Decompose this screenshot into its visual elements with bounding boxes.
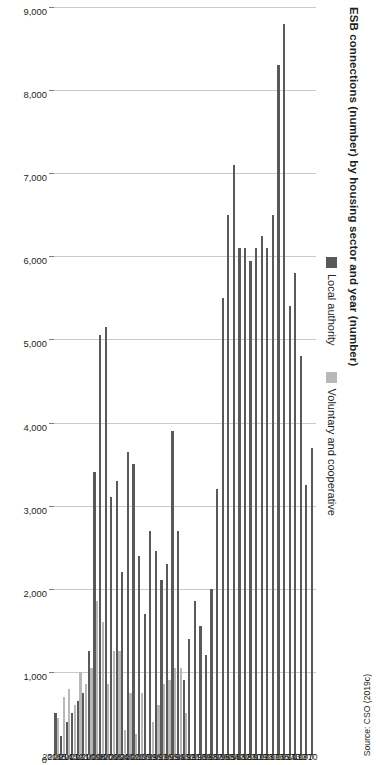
bar-local-authority[interactable] bbox=[183, 680, 185, 755]
bar-local-authority[interactable] bbox=[149, 531, 151, 755]
bar-row[interactable]: 1998 bbox=[154, 7, 160, 755]
bar-row[interactable]: 1992 bbox=[188, 7, 194, 755]
bar-row[interactable]: 1974 bbox=[288, 7, 294, 755]
bar-row[interactable]: 2000 bbox=[143, 7, 149, 755]
bar-row[interactable]: 1979 bbox=[260, 7, 266, 755]
bar-row[interactable]: 2012 bbox=[76, 7, 82, 755]
bar-local-authority[interactable] bbox=[244, 248, 246, 755]
bar-row[interactable]: 1985 bbox=[227, 7, 233, 755]
bar-local-authority[interactable] bbox=[105, 327, 107, 755]
bar-voluntary-cooperative[interactable] bbox=[63, 697, 65, 755]
bar-voluntary-cooperative[interactable] bbox=[85, 684, 87, 755]
bar-row[interactable]: 1989 bbox=[205, 7, 211, 755]
bar-voluntary-cooperative[interactable] bbox=[157, 705, 159, 755]
bar-row[interactable]: 1987 bbox=[216, 7, 222, 755]
bar-row[interactable]: 2007 bbox=[104, 7, 110, 755]
bar-voluntary-cooperative[interactable] bbox=[90, 668, 92, 755]
bar-local-authority[interactable] bbox=[300, 356, 302, 755]
bar-row[interactable]: 1984 bbox=[232, 7, 238, 755]
bar-row[interactable]: 1982 bbox=[244, 7, 250, 755]
bar-row[interactable]: 1970 bbox=[310, 7, 316, 755]
bar-voluntary-cooperative[interactable] bbox=[118, 651, 120, 755]
bar-local-authority[interactable] bbox=[194, 601, 196, 755]
bar-row[interactable]: 2014 bbox=[65, 7, 71, 755]
bar-local-authority[interactable] bbox=[289, 306, 291, 755]
bar-local-authority[interactable] bbox=[138, 556, 140, 755]
bar-row[interactable]: 1997 bbox=[160, 7, 166, 755]
bar-row[interactable]: 1983 bbox=[238, 7, 244, 755]
bar-voluntary-cooperative[interactable] bbox=[74, 705, 76, 755]
bar-local-authority[interactable] bbox=[199, 626, 201, 755]
bar-local-authority[interactable] bbox=[166, 564, 168, 755]
bar-row[interactable]: 2011 bbox=[82, 7, 88, 755]
bar-row[interactable]: 2004 bbox=[121, 7, 127, 755]
bar-local-authority[interactable] bbox=[188, 639, 190, 755]
bar-local-authority[interactable] bbox=[132, 464, 134, 755]
bar-row[interactable]: 1975 bbox=[283, 7, 289, 755]
bar-row[interactable]: 2015 bbox=[60, 7, 66, 755]
bar-local-authority[interactable] bbox=[216, 489, 218, 755]
bar-row[interactable]: 1993 bbox=[182, 7, 188, 755]
bar-voluntary-cooperative[interactable] bbox=[102, 622, 104, 755]
bar-row[interactable]: 2005 bbox=[115, 7, 121, 755]
bar-local-authority[interactable] bbox=[127, 452, 129, 755]
bar-local-authority[interactable] bbox=[294, 273, 296, 755]
bar-voluntary-cooperative[interactable] bbox=[107, 684, 109, 755]
bar-local-authority[interactable] bbox=[54, 713, 56, 755]
bar-voluntary-cooperative[interactable] bbox=[185, 713, 187, 755]
bar-row[interactable]: 1999 bbox=[149, 7, 155, 755]
bar-local-authority[interactable] bbox=[77, 701, 79, 755]
bar-row[interactable]: 2013 bbox=[71, 7, 77, 755]
bar-voluntary-cooperative[interactable] bbox=[174, 668, 176, 755]
bar-voluntary-cooperative[interactable] bbox=[152, 722, 154, 755]
bar-row[interactable]: 2008 bbox=[99, 7, 105, 755]
bar-voluntary-cooperative[interactable] bbox=[68, 689, 70, 755]
bar-row[interactable]: 1996 bbox=[166, 7, 172, 755]
bar-row[interactable]: 1995 bbox=[171, 7, 177, 755]
bar-voluntary-cooperative[interactable] bbox=[79, 672, 81, 755]
bar-local-authority[interactable] bbox=[283, 24, 285, 755]
bar-local-authority[interactable] bbox=[266, 248, 268, 755]
bar-row[interactable]: 1977 bbox=[271, 7, 277, 755]
bar-local-authority[interactable] bbox=[227, 215, 229, 755]
bar-row[interactable]: 1986 bbox=[221, 7, 227, 755]
bar-local-authority[interactable] bbox=[233, 165, 235, 755]
bar-local-authority[interactable] bbox=[261, 236, 263, 755]
bar-local-authority[interactable] bbox=[177, 531, 179, 755]
bar-local-authority[interactable] bbox=[88, 651, 90, 755]
bar-local-authority[interactable] bbox=[116, 481, 118, 755]
bar-row[interactable]: 2001 bbox=[138, 7, 144, 755]
bar-voluntary-cooperative[interactable] bbox=[163, 684, 165, 755]
bar-row[interactable]: 2016 bbox=[54, 7, 60, 755]
bar-voluntary-cooperative[interactable] bbox=[113, 651, 115, 755]
bar-local-authority[interactable] bbox=[71, 713, 73, 755]
bar-row[interactable]: 1971 bbox=[305, 7, 311, 755]
bar-local-authority[interactable] bbox=[205, 655, 207, 755]
bar-local-authority[interactable] bbox=[255, 248, 257, 755]
bar-local-authority[interactable] bbox=[93, 472, 95, 755]
bar-local-authority[interactable] bbox=[277, 65, 279, 755]
bar-row[interactable]: 1991 bbox=[193, 7, 199, 755]
bar-voluntary-cooperative[interactable] bbox=[129, 693, 131, 755]
bar-row[interactable]: 1988 bbox=[210, 7, 216, 755]
bar-local-authority[interactable] bbox=[222, 298, 224, 755]
bar-row[interactable]: 1981 bbox=[249, 7, 255, 755]
bar-row[interactable]: 1978 bbox=[266, 7, 272, 755]
bar-row[interactable]: 2006 bbox=[110, 7, 116, 755]
bar-local-authority[interactable] bbox=[272, 215, 274, 755]
bar-voluntary-cooperative[interactable] bbox=[57, 718, 59, 755]
bar-local-authority[interactable] bbox=[99, 335, 101, 755]
bar-local-authority[interactable] bbox=[66, 722, 68, 755]
bar-row[interactable]: 1990 bbox=[199, 7, 205, 755]
bar-voluntary-cooperative[interactable] bbox=[180, 668, 182, 755]
bar-local-authority[interactable] bbox=[250, 261, 252, 756]
bar-local-authority[interactable] bbox=[110, 497, 112, 755]
bar-local-authority[interactable] bbox=[210, 589, 212, 755]
bar-voluntary-cooperative[interactable] bbox=[141, 693, 143, 755]
bar-local-authority[interactable] bbox=[144, 614, 146, 755]
bar-local-authority[interactable] bbox=[171, 431, 173, 755]
bar-row[interactable]: 2010 bbox=[87, 7, 93, 755]
bar-local-authority[interactable] bbox=[305, 485, 307, 755]
bar-voluntary-cooperative[interactable] bbox=[96, 601, 98, 755]
bar-local-authority[interactable] bbox=[155, 551, 157, 755]
